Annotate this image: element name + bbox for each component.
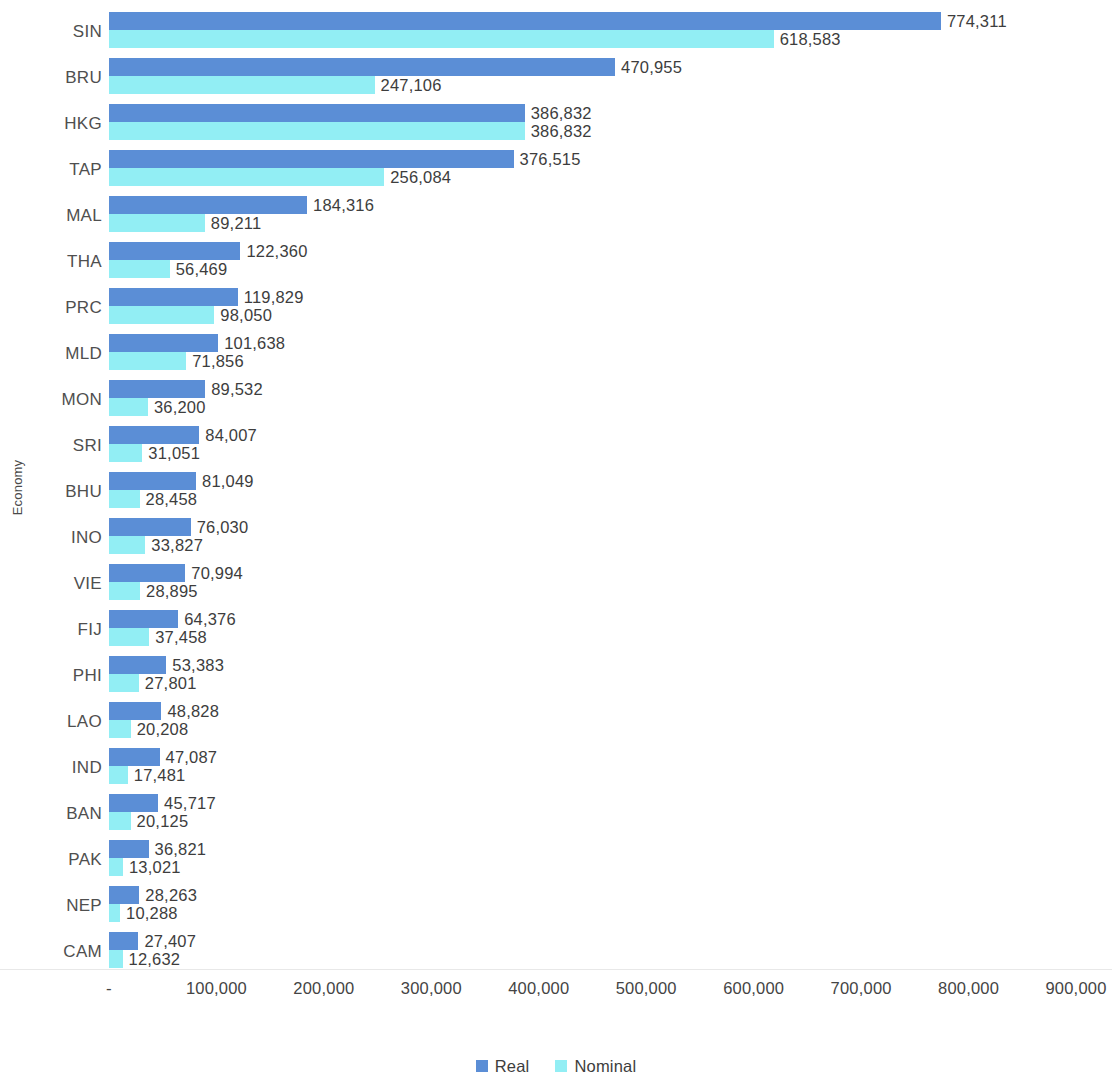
bar-nominal[interactable] [109,306,214,324]
bar-real[interactable] [109,58,615,76]
bar-group-real: 376,515 [109,150,1112,168]
row-bars: 89,53236,200 [109,377,1112,423]
bar-real[interactable] [109,472,196,490]
bar-group-nominal: 37,458 [109,628,1112,646]
bar-nominal[interactable] [109,950,123,968]
bar-nominal[interactable] [109,582,140,600]
category-label: BRU [30,55,102,101]
row-bars: 470,955247,106 [109,55,1112,101]
category-label: IND [30,745,102,791]
bar-value-label: 71,856 [186,352,244,370]
row-bars: 386,832386,832 [109,101,1112,147]
bar-nominal[interactable] [109,720,131,738]
bar-value-label: 20,208 [131,720,189,738]
chart-row: SRI84,00731,051 [0,423,1112,469]
bar-value-label: 36,200 [148,398,206,416]
bar-value-label: 17,481 [128,766,186,784]
chart-row: MAL184,31689,211 [0,193,1112,239]
bar-real[interactable] [109,426,199,444]
x-axis-tick-label: 800,000 [938,979,999,998]
bar-nominal[interactable] [109,30,774,48]
bar-group-nominal: 98,050 [109,306,1112,324]
bar-nominal[interactable] [109,490,140,508]
bar-nominal[interactable] [109,858,123,876]
bar-real[interactable] [109,380,205,398]
bar-group-nominal: 33,827 [109,536,1112,554]
bar-real[interactable] [109,104,525,122]
category-label: SIN [30,9,102,55]
bar-value-label: 13,021 [123,858,181,876]
bar-real[interactable] [109,656,166,674]
bar-value-label: 247,106 [375,76,442,94]
bar-nominal[interactable] [109,76,375,94]
bar-group-real: 84,007 [109,426,1112,444]
bar-real[interactable] [109,334,218,352]
bar-nominal[interactable] [109,536,145,554]
bar-value-label: 45,717 [158,794,216,812]
category-label: TAP [30,147,102,193]
chart-row: FIJ64,37637,458 [0,607,1112,653]
bar-nominal[interactable] [109,260,170,278]
bar-real[interactable] [109,886,139,904]
legend-item[interactable]: Real [476,1057,530,1076]
bar-value-label: 27,407 [138,932,196,950]
chart-row: PHI53,38327,801 [0,653,1112,699]
bar-group-real: 101,638 [109,334,1112,352]
chart-row: MON89,53236,200 [0,377,1112,423]
bar-real[interactable] [109,564,185,582]
bar-real[interactable] [109,242,240,260]
bar-real[interactable] [109,932,138,950]
bar-nominal[interactable] [109,352,186,370]
bar-real[interactable] [109,840,149,858]
bar-real[interactable] [109,748,160,766]
bar-value-label: 618,583 [774,30,841,48]
bar-real[interactable] [109,518,191,536]
bar-real[interactable] [109,196,307,214]
bar-nominal[interactable] [109,444,142,462]
bar-value-label: 184,316 [307,196,374,214]
bar-group-nominal: 618,583 [109,30,1112,48]
category-label: LAO [30,699,102,745]
bar-group-nominal: 36,200 [109,398,1112,416]
bar-nominal[interactable] [109,904,120,922]
bar-value-label: 12,632 [123,950,181,968]
bar-value-label: 37,458 [149,628,207,646]
legend-item[interactable]: Nominal [555,1057,636,1076]
bar-nominal[interactable] [109,398,148,416]
x-axis-tick-label: 200,000 [293,979,354,998]
category-label: MAL [30,193,102,239]
bar-real[interactable] [109,288,238,306]
row-bars: 28,26310,288 [109,883,1112,929]
bar-value-label: 256,084 [384,168,451,186]
category-label: MON [30,377,102,423]
bar-nominal[interactable] [109,168,384,186]
category-label: HKG [30,101,102,147]
bar-nominal[interactable] [109,674,139,692]
bar-group-nominal: 256,084 [109,168,1112,186]
row-bars: 184,31689,211 [109,193,1112,239]
bar-real[interactable] [109,794,158,812]
bar-nominal[interactable] [109,214,205,232]
bar-real[interactable] [109,702,161,720]
bar-nominal[interactable] [109,628,149,646]
bar-real[interactable] [109,12,941,30]
bar-value-label: 10,288 [120,904,178,922]
bar-group-real: 184,316 [109,196,1112,214]
bar-nominal[interactable] [109,766,128,784]
row-bars: 774,311618,583 [109,9,1112,55]
bar-value-label: 53,383 [166,656,224,674]
legend-label: Nominal [574,1057,636,1076]
bar-group-nominal: 28,458 [109,490,1112,508]
category-label: THA [30,239,102,285]
chart-row: IND47,08717,481 [0,745,1112,791]
row-bars: 53,38327,801 [109,653,1112,699]
bar-value-label: 47,087 [160,748,218,766]
row-bars: 45,71720,125 [109,791,1112,837]
bar-group-real: 27,407 [109,932,1112,950]
bar-real[interactable] [109,610,178,628]
bar-nominal[interactable] [109,122,525,140]
bar-real[interactable] [109,150,514,168]
row-bars: 48,82820,208 [109,699,1112,745]
bar-nominal[interactable] [109,812,131,830]
bar-value-label: 774,311 [941,12,1007,30]
